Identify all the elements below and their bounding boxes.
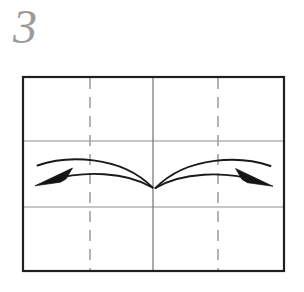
fold-arrow-right-head [236,169,274,187]
fold-arrow-left-head [35,168,73,186]
fold-arrow-left [35,159,153,187]
fold-arrow-right [156,160,274,188]
origami-figure: 3 [0,0,304,292]
origami-diagram [0,0,304,292]
